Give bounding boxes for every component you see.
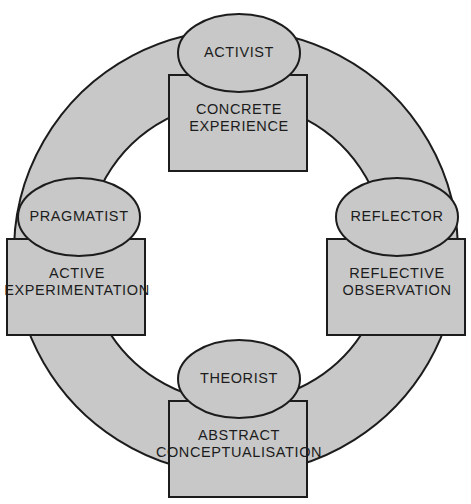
cycle-graphics xyxy=(0,0,471,504)
style-ellipse-activist xyxy=(178,14,300,92)
kolb-learning-cycle-diagram: ACTIVIST CONCRETE EXPERIENCE REFLECTOR R… xyxy=(0,0,471,504)
node-right xyxy=(327,178,465,335)
style-ellipse-pragmatist xyxy=(18,178,140,256)
node-left xyxy=(7,178,145,335)
style-ellipse-theorist xyxy=(178,340,300,418)
node-bottom xyxy=(169,340,307,497)
style-ellipse-reflector xyxy=(336,178,458,256)
node-top xyxy=(169,14,307,171)
